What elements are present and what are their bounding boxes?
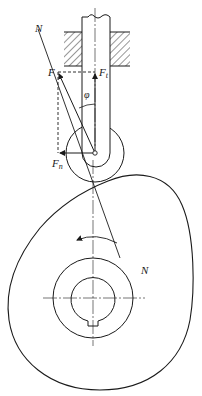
- cam-follower-diagram: [0, 0, 202, 396]
- label-ft-main: F: [99, 66, 106, 78]
- label-fn-sub: n: [59, 162, 63, 171]
- guide-left: [64, 32, 82, 66]
- label-n-top: N: [35, 23, 42, 34]
- label-phi: φ: [84, 90, 90, 100]
- label-fn: Fn: [52, 158, 63, 171]
- roller-pin: [93, 151, 97, 155]
- rotation-arrow-icon: [77, 237, 117, 243]
- label-n-bottom: N: [141, 265, 148, 276]
- label-ft-sub: t: [106, 71, 108, 80]
- cam-profile: [8, 175, 193, 390]
- guide-right: [110, 32, 130, 66]
- label-ft: Ft: [99, 67, 108, 80]
- label-f: F: [48, 67, 55, 78]
- label-fn-main: F: [52, 157, 59, 169]
